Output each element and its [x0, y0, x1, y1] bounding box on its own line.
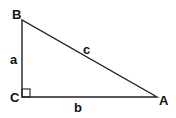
right-triangle-diagram: B C A a b c	[0, 0, 176, 118]
right-angle-marker	[22, 89, 30, 97]
vertex-label-a: A	[159, 93, 169, 108]
vertex-label-c: C	[10, 90, 20, 105]
side-label-c: c	[83, 42, 90, 57]
side-label-a: a	[10, 52, 18, 67]
triangle-shape	[22, 20, 157, 97]
vertex-label-b: B	[12, 7, 21, 22]
side-label-b: b	[74, 100, 82, 115]
